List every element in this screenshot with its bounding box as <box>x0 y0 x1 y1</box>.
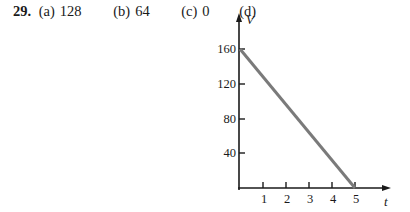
x-axis-arrow-icon <box>382 185 391 191</box>
line-chart: V t 160 120 80 40 1 2 3 4 5 <box>0 0 410 212</box>
x-ticks: 1 2 3 4 5 <box>261 182 359 206</box>
data-line <box>240 49 355 188</box>
y-axis-label: V <box>246 12 256 27</box>
y-tick-80: 80 <box>224 112 237 126</box>
x-axis-label: t <box>384 194 388 209</box>
y-tick-120: 120 <box>217 77 236 91</box>
y-tick-40: 40 <box>224 146 237 160</box>
x-tick-2: 2 <box>284 192 290 206</box>
x-tick-5: 5 <box>353 192 359 206</box>
x-tick-1: 1 <box>261 192 267 206</box>
x-tick-3: 3 <box>307 192 313 206</box>
x-tick-4: 4 <box>330 192 337 206</box>
y-ticks: 160 120 80 40 <box>217 42 245 160</box>
y-axis-arrow-icon <box>236 13 242 22</box>
y-tick-160: 160 <box>217 42 236 56</box>
